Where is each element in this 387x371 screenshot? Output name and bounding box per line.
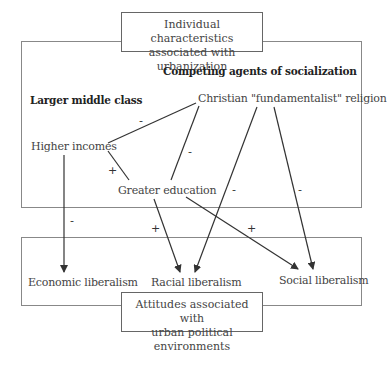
node-racial-liberalism: Racial liberalism [151, 276, 241, 289]
edge-religion-income [108, 103, 196, 143]
node-higher-incomes: Higher incomes [31, 140, 117, 153]
node-greater-education: Greater education [118, 184, 216, 197]
heading-larger-middle-class: Larger middle class [30, 94, 142, 106]
sign-income-education: + [108, 164, 117, 177]
bottom-title-line2: urban political environments [122, 326, 262, 354]
sign-education-racial: + [151, 222, 160, 235]
node-social-liberalism: Social liberalism [279, 274, 369, 287]
edge-education-racial [154, 199, 180, 272]
edge-religion-education [171, 106, 199, 180]
sign-education-social: + [247, 222, 256, 235]
top-title-line1: Individual characteristics [122, 18, 262, 46]
sign-religion-education: - [188, 145, 192, 158]
edge-religion-social [274, 107, 313, 269]
sign-religion-social: - [298, 183, 302, 196]
heading-competing-agents: Competing agents of socialization [163, 65, 357, 77]
top-title-box: Individual characteristics associated wi… [121, 12, 263, 52]
bottom-title-line1: Attitudes associated with [122, 298, 262, 326]
bottom-title-box: Attitudes associated with urban politica… [121, 292, 263, 332]
node-economic-liberalism: Economic liberalism [28, 276, 138, 289]
sign-income-economic: - [70, 214, 74, 227]
sign-religion-income: - [139, 114, 143, 127]
sign-religion-racial: - [232, 183, 236, 196]
node-religion: Christian "fundamentalist" religion [198, 92, 387, 105]
